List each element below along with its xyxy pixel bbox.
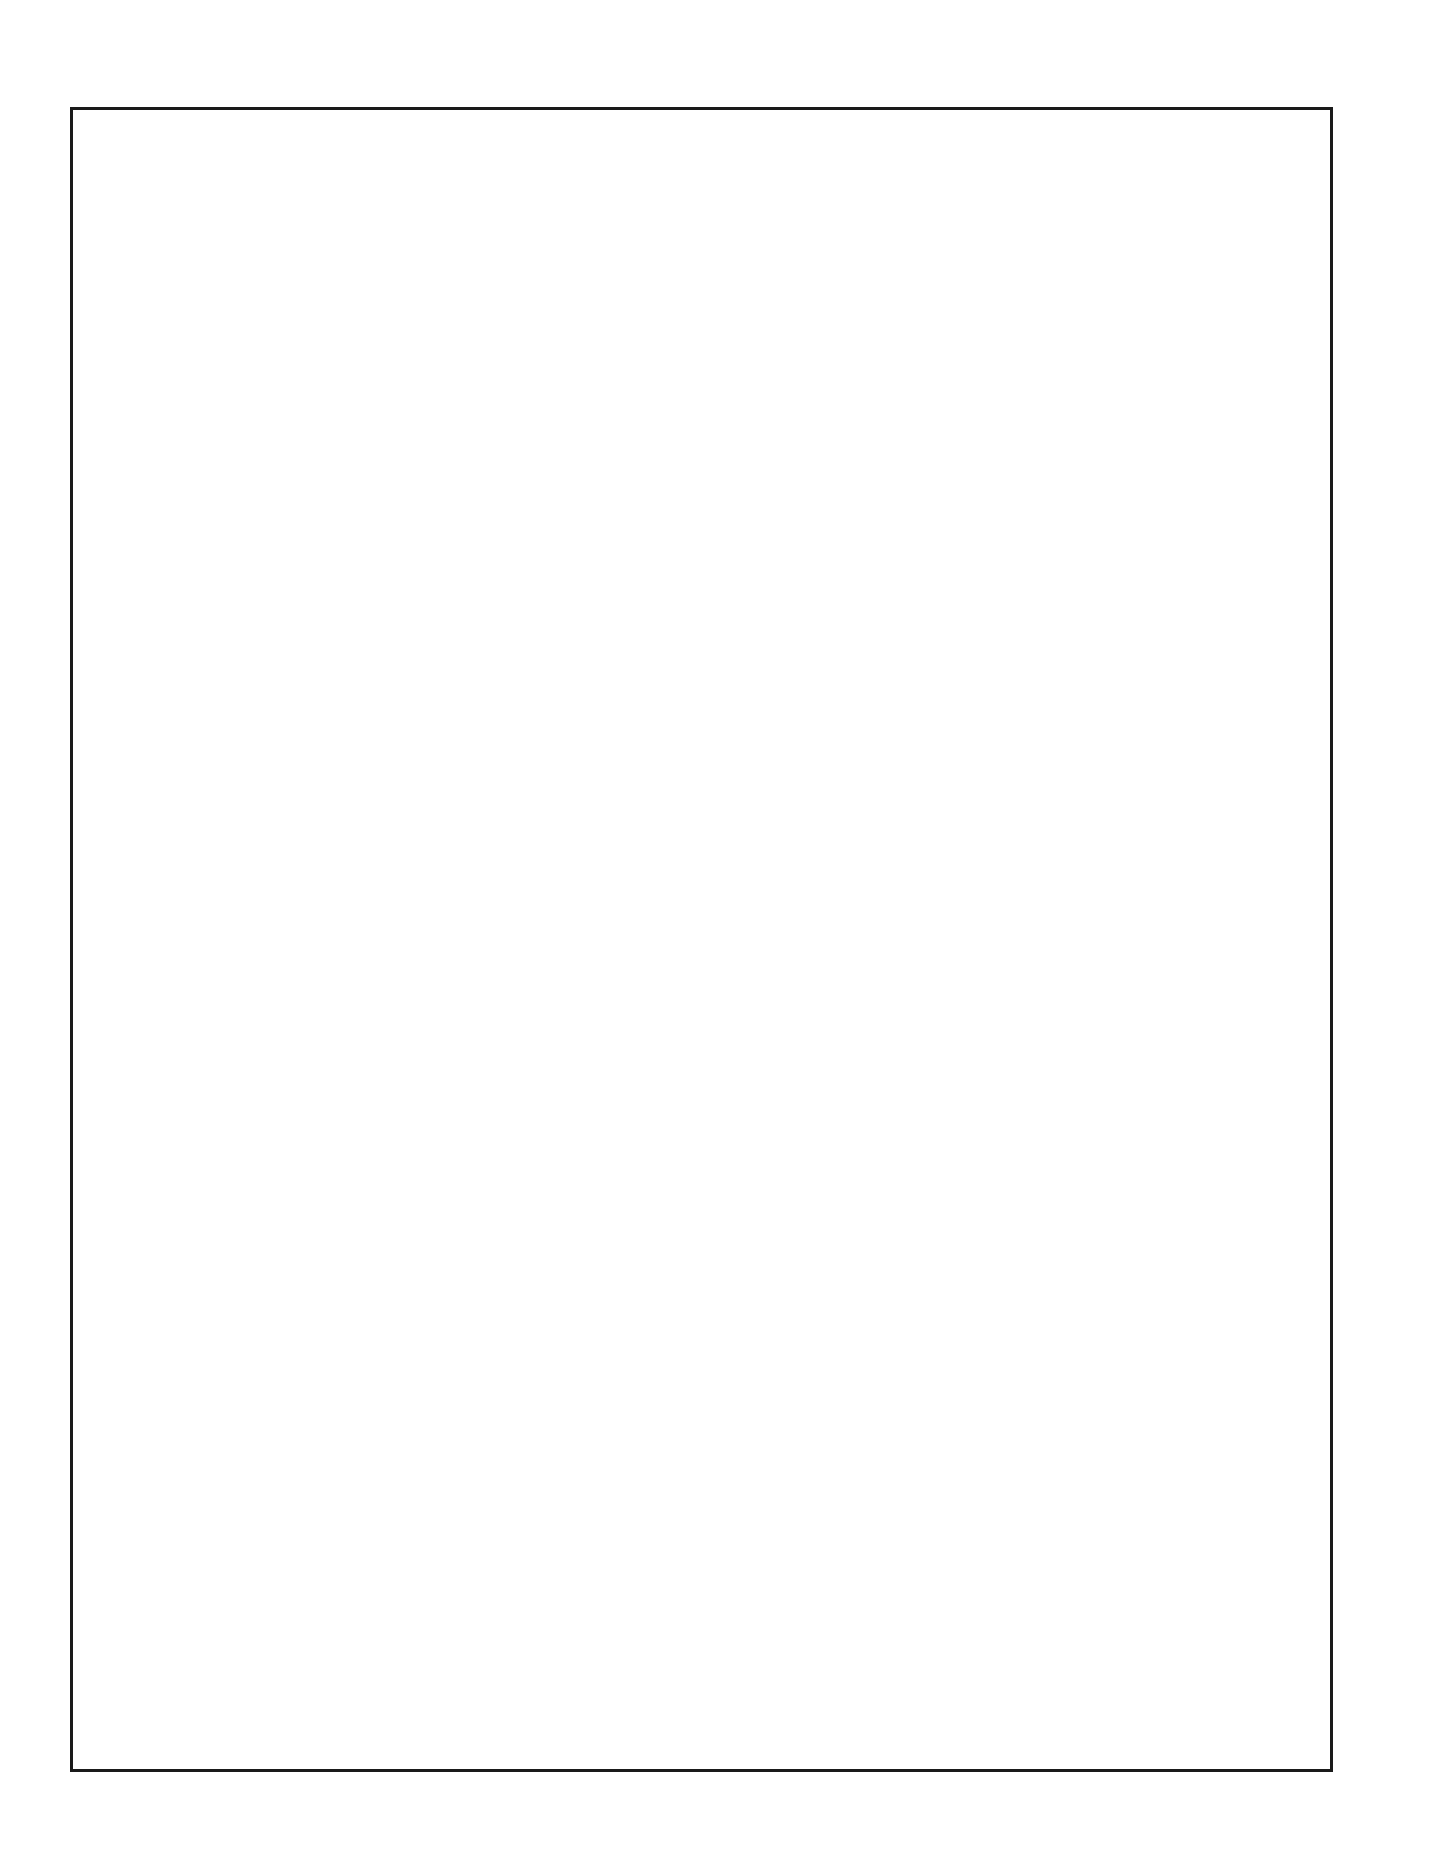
drawing-sheet	[0, 0, 1429, 1859]
lines-plan-drawing	[0, 0, 1429, 1859]
